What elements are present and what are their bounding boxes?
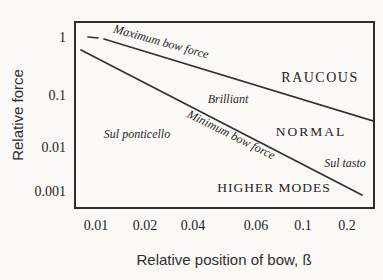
x-tick-0.06: 0.06	[244, 218, 269, 234]
y-tick-1: 1	[59, 30, 66, 46]
x-tick-0.02: 0.02	[133, 218, 158, 234]
x-tick-0.04: 0.04	[181, 218, 206, 234]
x-axis-title: Relative position of bow, ß	[136, 251, 311, 268]
region-label-raucous: RAUCOUS	[281, 70, 358, 86]
region-label-sul-tasto: Sul tasto	[324, 156, 366, 171]
region-label-higher-modes: HIGHER MODES	[217, 180, 331, 196]
max-bow-force-dash	[88, 37, 98, 38]
y-axis-title: Relative force	[9, 69, 26, 161]
region-label-brilliant: Brilliant	[208, 92, 249, 107]
x-tick-0.01: 0.01	[84, 218, 109, 234]
y-tick-0.001: 0.001	[35, 184, 67, 200]
x-tick-0.2: 0.2	[338, 218, 356, 234]
y-tick-0.1: 0.1	[49, 88, 67, 104]
schelleng-diagram-figure: Maximum bow force Minimum bow force RAUC…	[0, 0, 383, 280]
x-tick-0.1: 0.1	[294, 218, 312, 234]
y-tick-0.01: 0.01	[42, 140, 67, 156]
region-label-normal: NORMAL	[276, 124, 347, 140]
region-label-sul-ponticello: Sul ponticello	[104, 127, 170, 142]
